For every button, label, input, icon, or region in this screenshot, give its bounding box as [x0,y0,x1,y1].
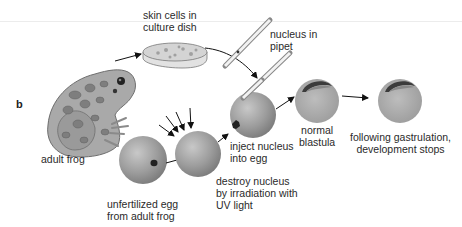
nuclear-transfer-diagram: b skin cells in culture dish nucleus in … [0,0,462,227]
arrested-embryo-icon [378,79,422,123]
pipet-upper-icon [225,20,270,66]
label-development-stops: following gastrulation, development stop… [350,131,451,155]
arrow-to-arrested [342,96,368,98]
petri-dish-icon [143,43,207,68]
arrow-to-injected-egg [218,134,228,142]
unfertilized-egg-icon [119,136,167,184]
panel-letter: b [16,98,23,110]
label-inject-nucleus: inject nucleus into egg [230,140,294,164]
label-destroy-nucleus: destroy nucleus by irradiation with UV l… [216,175,298,211]
label-adult-frog: adult frog [41,153,85,165]
frog-icon [48,70,136,157]
arrow-frog-to-dish [115,54,141,61]
label-nucleus-pipet: nucleus in pipet [270,28,317,52]
injected-egg-icon [230,92,276,138]
connector-egg [166,160,177,163]
uv-light-arrows [159,108,191,136]
arrow-to-blastula [276,97,294,109]
label-normal-blastula: normal blastula [299,124,335,148]
label-skin-cells: skin cells in culture dish [143,9,197,33]
irradiated-egg-icon [175,131,221,177]
normal-blastula-icon [295,79,339,123]
label-unfertilized-egg: unfertilized egg from adult frog [107,198,178,222]
